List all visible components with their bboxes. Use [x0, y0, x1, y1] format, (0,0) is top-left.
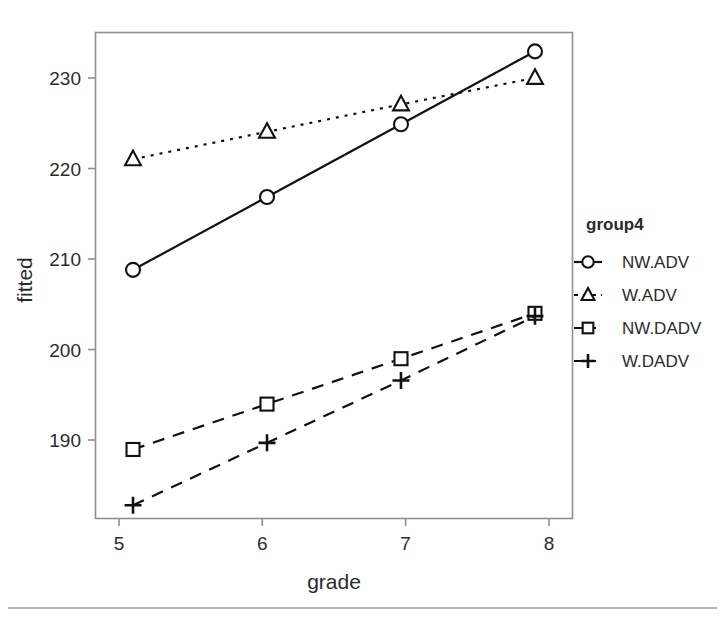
series-line-nw-adv	[133, 51, 535, 269]
x-tick-label-7: 7	[400, 533, 411, 554]
series-line-nw-dadv	[133, 313, 535, 449]
y-tick-label-190: 190	[49, 430, 81, 451]
legend-label: NW.ADV	[622, 253, 690, 272]
legend-item-w-dadv[interactable]: W.DADV	[574, 352, 690, 371]
legend-label: W.DADV	[622, 352, 690, 371]
data-point	[259, 434, 276, 451]
series-w-adv	[125, 69, 543, 165]
series-w-dadv	[125, 308, 544, 514]
data-point	[259, 123, 275, 138]
legend-label: W.ADV	[622, 286, 677, 305]
y-tick-label-200: 200	[49, 340, 81, 361]
plot-frame	[96, 33, 573, 519]
legend-title: group4	[586, 215, 644, 234]
data-point	[125, 151, 141, 166]
data-point	[394, 352, 407, 365]
legend-label: NW.DADV	[622, 319, 702, 338]
data-point	[261, 398, 274, 411]
line-chart: 190 200 210 220 230 fitted 5 6 7 8 grade	[0, 0, 725, 621]
y-tick-label-210: 210	[49, 249, 81, 270]
data-point	[528, 44, 542, 58]
series-nw-adv	[126, 44, 542, 276]
x-axis-tick-labels: 5 6 7 8	[114, 533, 555, 554]
series-line-w-adv	[133, 78, 535, 159]
legend-items: NW.ADVW.ADVNW.DADVW.DADV	[574, 253, 702, 371]
series-line-w-dadv	[133, 316, 535, 505]
legend-item-w-adv[interactable]: W.ADV	[574, 286, 677, 305]
legend-item-nw-adv[interactable]: NW.ADV	[574, 253, 690, 272]
data-point	[260, 190, 274, 204]
y-axis-tick-labels: 190 200 210 220 230	[49, 68, 81, 451]
series-nw-dadv	[127, 307, 542, 456]
data-point	[394, 117, 408, 131]
data-point	[527, 69, 543, 84]
plus-marker-icon	[581, 354, 595, 368]
x-tick-label-5: 5	[114, 533, 125, 554]
circle-marker-icon	[582, 256, 593, 267]
data-point	[126, 263, 140, 277]
data-point	[392, 372, 409, 389]
data-point	[125, 497, 142, 514]
x-axis-ticks	[119, 519, 549, 527]
y-tick-label-220: 220	[49, 159, 81, 180]
square-marker-icon	[583, 323, 594, 334]
x-tick-label-6: 6	[257, 533, 268, 554]
y-axis-ticks	[88, 78, 95, 440]
y-tick-label-230: 230	[49, 68, 81, 89]
legend: group4 NW.ADVW.ADVNW.DADVW.DADV	[574, 215, 702, 371]
data-point	[127, 443, 140, 456]
legend-item-nw-dadv[interactable]: NW.DADV	[574, 319, 702, 338]
x-axis-title: grade	[307, 570, 361, 593]
y-axis-title: fitted	[13, 257, 36, 303]
series-layer	[125, 44, 544, 513]
x-tick-label-8: 8	[544, 533, 555, 554]
figure-container: 190 200 210 220 230 fitted 5 6 7 8 grade	[0, 0, 725, 621]
